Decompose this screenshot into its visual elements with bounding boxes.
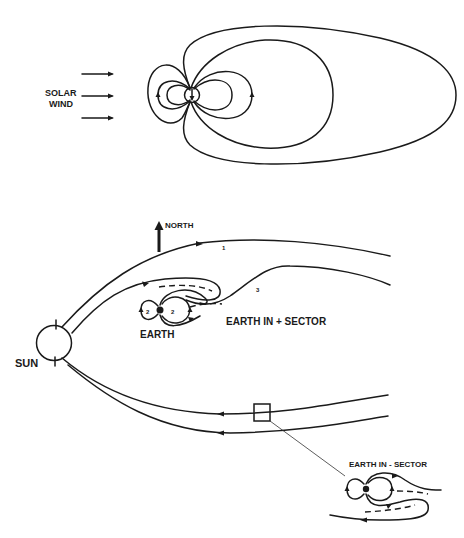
field-line-1-label: 1 bbox=[222, 245, 226, 251]
minus-sector-label: EARTH IN - SECTOR bbox=[349, 460, 427, 469]
inset-pointer-line bbox=[270, 421, 345, 476]
field-line-2-left-label: 2 bbox=[146, 309, 150, 315]
earth-plus-sector bbox=[139, 290, 208, 326]
field-line-lower-2 bbox=[68, 365, 388, 433]
north-label: NORTH bbox=[165, 221, 194, 230]
north-arrow bbox=[155, 221, 164, 252]
field-line-1 bbox=[62, 240, 390, 327]
solar-wind-label: SOLAR bbox=[45, 88, 77, 98]
earth-label: EARTH bbox=[140, 329, 174, 340]
field-line-lower-1 bbox=[62, 358, 388, 414]
sun-label: SUN bbox=[15, 357, 38, 369]
solar-wind-label-2: WIND bbox=[49, 99, 73, 109]
magnetosphere-diagram: SOLAR WIND NORTH SUN 1 bbox=[0, 0, 464, 538]
magnetosphere bbox=[148, 26, 456, 164]
field-line-3a bbox=[72, 278, 220, 333]
sun bbox=[37, 320, 72, 366]
earth-minus-sector bbox=[330, 473, 441, 523]
field-line-2-right-label: 2 bbox=[171, 309, 175, 315]
plus-sector-label: EARTH IN + SECTOR bbox=[226, 316, 327, 327]
solar-wind-arrows bbox=[82, 72, 114, 121]
field-line-3-label: 3 bbox=[256, 287, 260, 293]
